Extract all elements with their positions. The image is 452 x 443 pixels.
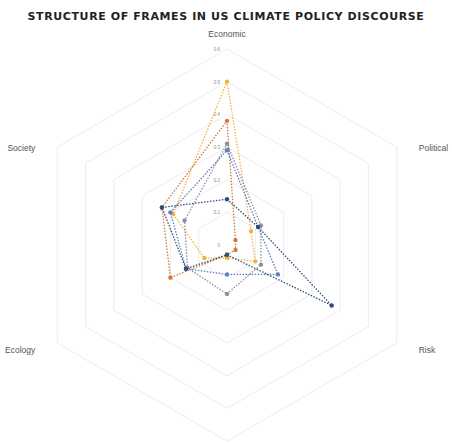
data-point xyxy=(225,253,229,257)
data-point xyxy=(276,272,280,276)
data-point xyxy=(256,225,260,229)
tick-label: 0.3 xyxy=(214,145,221,150)
data-point xyxy=(168,275,172,279)
data-point xyxy=(259,262,263,266)
data-point xyxy=(225,272,229,276)
axis-label-risk: Risk xyxy=(419,345,436,355)
axis-label-economic: Economic xyxy=(208,29,246,39)
tick-label: 0.1 xyxy=(214,210,221,215)
data-point xyxy=(225,119,229,123)
tick-label: 0.5 xyxy=(214,80,221,85)
data-point xyxy=(202,256,206,260)
data-point xyxy=(225,79,229,83)
data-point xyxy=(182,218,186,222)
tick-label: 0 xyxy=(217,243,220,248)
data-point xyxy=(329,303,333,307)
data-point xyxy=(233,238,237,242)
axis-label-ecology: Ecology xyxy=(5,345,36,355)
data-point xyxy=(168,210,172,214)
data-point xyxy=(249,229,253,233)
radar-chart: 00.10.20.30.40.50.6EconomicPoliticalRisk… xyxy=(0,0,452,443)
tick-label: 0.6 xyxy=(214,47,221,52)
grid-ring xyxy=(114,114,340,375)
axis-label-political: Political xyxy=(419,143,448,153)
data-point xyxy=(225,292,229,296)
axis-label-society: Society xyxy=(7,143,36,153)
grid-ring xyxy=(86,82,369,409)
data-point xyxy=(225,142,229,146)
data-point xyxy=(253,259,257,263)
grid-ring xyxy=(142,147,312,343)
data-point xyxy=(225,197,229,201)
data-point xyxy=(233,248,237,252)
tick-label: 0.2 xyxy=(214,178,221,183)
data-point xyxy=(160,205,164,209)
data-point xyxy=(184,266,188,270)
grid-ring xyxy=(199,212,256,277)
data-point xyxy=(225,148,229,152)
grid-ring xyxy=(57,49,396,441)
